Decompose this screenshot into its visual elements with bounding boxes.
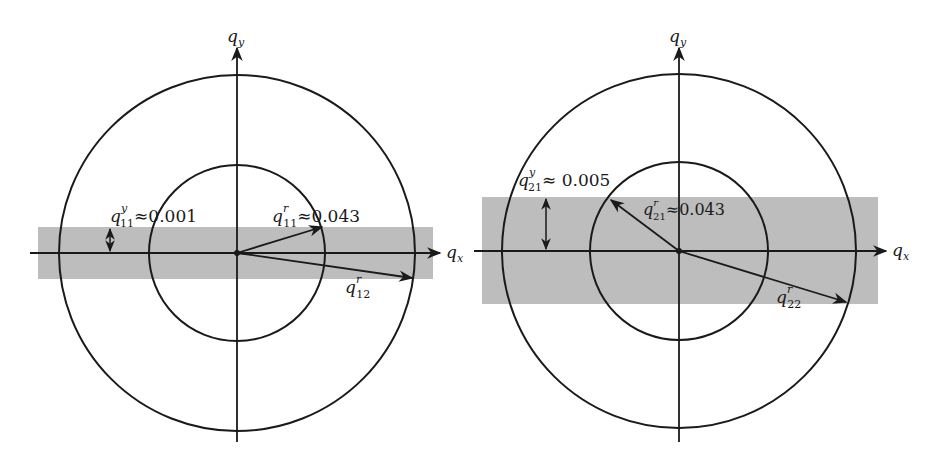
- right-diagram: qx qy qy21≈ 0.005 qr21≈0.043 qr22: [474, 26, 910, 442]
- diagram-canvas: qx qy qy11≈0.001 qr11≈0.043 qr12 qx qy q…: [0, 0, 929, 464]
- left-axis-y-label: qy: [227, 26, 245, 49]
- right-band-label: qy21≈ 0.005: [518, 166, 610, 194]
- right-axis-y-label: qy: [669, 26, 687, 49]
- left-axis-x-label: qx: [446, 242, 464, 265]
- right-axis-x-label: qx: [892, 240, 910, 263]
- left-vector1-label: qr11≈0.043: [272, 202, 360, 230]
- left-diagram: qx qy qy11≈0.001 qr11≈0.043 qr12: [30, 26, 464, 442]
- left-band-label: qy11≈0.001: [110, 202, 197, 230]
